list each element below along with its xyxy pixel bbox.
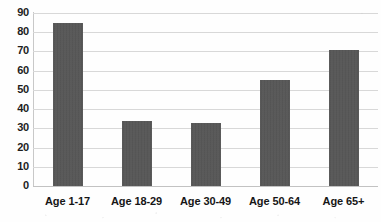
bar [122,121,152,186]
y-axis-tick-label: 20 [0,142,29,153]
x-axis-tick-label: Age 65+ [309,194,378,208]
bar-group [329,13,359,186]
y-axis-tick-label: 40 [0,103,29,114]
bar [260,80,290,186]
x-axis: Age 1-17 Age 18-29 Age 30-49 Age 50-64 A… [33,194,378,210]
y-axis-tick-label: 10 [0,161,29,172]
bar-group [53,13,83,186]
x-axis-tick-label: Age 1-17 [33,194,102,208]
y-axis-tick-label: 50 [0,84,29,95]
bar-group [191,13,221,186]
y-axis-tick-label: 90 [0,7,29,18]
x-axis-tick-label: Age 50-64 [240,194,309,208]
bar [329,50,359,186]
y-axis: 90 80 70 60 50 40 30 20 10 0 [0,0,29,222]
bar [53,23,83,186]
gridline [33,186,378,187]
bar [191,123,221,186]
y-axis-tick-label: 30 [0,122,29,133]
y-axis-tick-label: 60 [0,65,29,76]
y-axis-tick-label: 0 [0,180,29,191]
x-axis-tick-label: Age 30-49 [171,194,240,208]
plot-area [33,13,378,186]
x-axis-tick-label: Age 18-29 [102,194,171,208]
bar-group [122,13,152,186]
y-axis-tick-label: 80 [0,26,29,37]
bar-chart-figure: 90 80 70 60 50 40 30 20 10 0 Age 1-17 Ag… [0,0,381,222]
y-axis-tick-label: 70 [0,45,29,56]
bar-group [260,13,290,186]
